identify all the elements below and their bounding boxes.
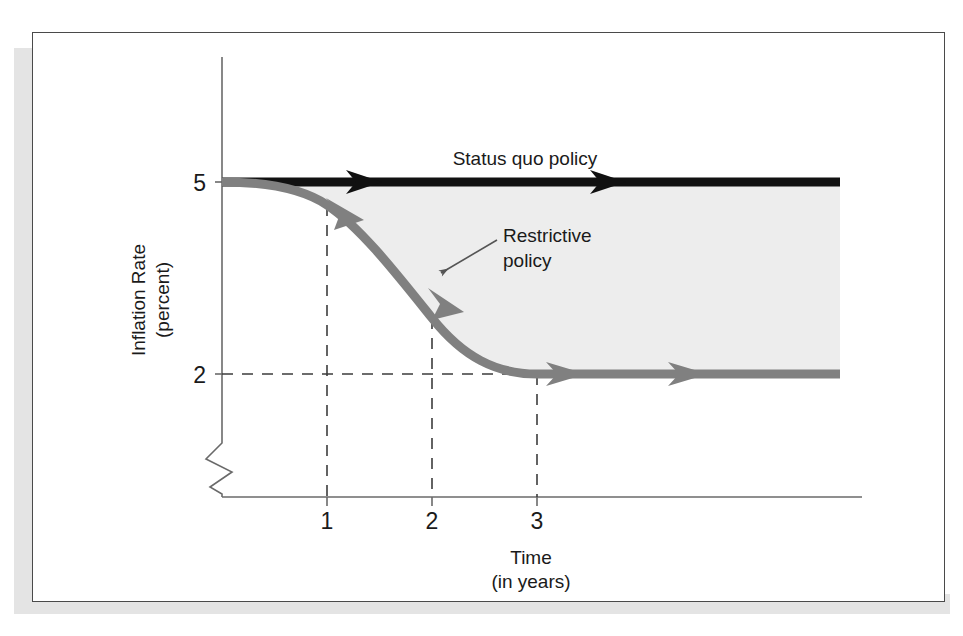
x-tick-label-1: 1 (321, 508, 334, 534)
restrictive-policy-label-line2: policy (503, 250, 552, 271)
x-axis-title-line2: (in years) (491, 571, 570, 592)
shaded-gap-region (222, 182, 840, 374)
status-quo-policy-label: Status quo policy (453, 148, 598, 169)
chart-plot-area: Status quo policy Restrictive policy 5 2… (0, 0, 963, 636)
x-axis-title-line1: Time (510, 547, 552, 568)
y-axis-break-icon (206, 437, 232, 497)
restrictive-policy-label-line1: Restrictive (503, 225, 592, 246)
y-tick-label-2: 2 (193, 362, 206, 388)
figure-stage: Status quo policy Restrictive policy 5 2… (0, 0, 963, 636)
y-tick-label-5: 5 (193, 170, 206, 196)
x-tick-label-3: 3 (531, 508, 544, 534)
x-tick-label-2: 2 (426, 508, 439, 534)
y-axis-title-line2: (percent) (152, 262, 173, 338)
y-axis-title-line1: Inflation Rate (128, 244, 149, 356)
